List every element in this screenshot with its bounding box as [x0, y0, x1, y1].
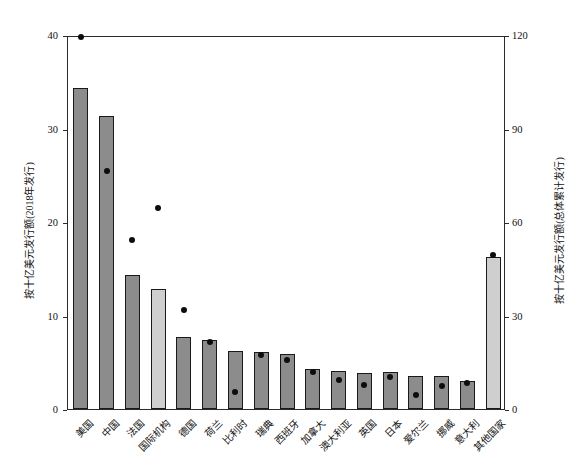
y-axis-left-title: 按十亿美元发行额(2018年发行): [21, 131, 36, 331]
data-point-dot: [232, 389, 238, 395]
data-point-dot: [336, 377, 342, 383]
y-axis-left-tick-label: 10: [0, 312, 58, 323]
y-axis-right-tick-label: 90: [512, 125, 523, 136]
plot-area: [67, 36, 505, 410]
data-point-dot: [284, 357, 290, 363]
y-axis-right-tick-label: 30: [512, 312, 523, 323]
data-point-dot: [490, 252, 496, 258]
y-axis-right-tick: [505, 317, 509, 318]
y-axis-left-tick: [63, 36, 67, 37]
data-point-dot: [78, 34, 84, 40]
data-point-dot: [310, 369, 316, 375]
data-point-dot: [181, 307, 187, 313]
y-axis-left-tick: [63, 410, 67, 411]
data-point-dot: [361, 382, 367, 388]
dots-layer: [68, 37, 504, 409]
y-axis-right-tick-label: 120: [512, 31, 528, 42]
y-axis-right-title: 按十亿美元发行额(总体累计发行): [551, 131, 566, 331]
data-point-dot: [464, 380, 470, 386]
y-axis-left-tick-label: 0: [0, 405, 58, 416]
chart-figure: 按十亿美元发行额(2018年发行) 按十亿美元发行额(总体累计发行) 01020…: [0, 0, 568, 469]
y-axis-right-tick-label: 0: [512, 405, 517, 416]
data-point-dot: [207, 339, 213, 345]
y-axis-right-tick: [505, 410, 509, 411]
y-axis-right-tick: [505, 36, 509, 37]
data-point-dot: [129, 237, 135, 243]
data-point-dot: [258, 352, 264, 358]
data-point-dot: [104, 168, 110, 174]
data-point-dot: [439, 383, 445, 389]
y-axis-left-tick: [63, 223, 67, 224]
y-axis-right-tick: [505, 223, 509, 224]
data-point-dot: [387, 374, 393, 380]
y-axis-left-tick-label: 40: [0, 31, 58, 42]
y-axis-right-tick-label: 60: [512, 218, 523, 229]
y-axis-left-tick: [63, 130, 67, 131]
data-point-dot: [413, 392, 419, 398]
y-axis-right-tick: [505, 130, 509, 131]
y-axis-left-tick-label: 20: [0, 218, 58, 229]
y-axis-left-tick-label: 30: [0, 125, 58, 136]
data-point-dot: [155, 205, 161, 211]
y-axis-left-tick: [63, 317, 67, 318]
